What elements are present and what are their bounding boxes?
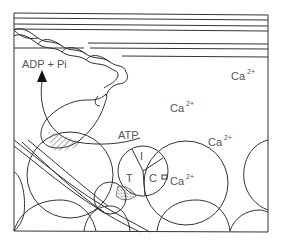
- svg-text:Ca: Ca: [208, 136, 223, 148]
- svg-text:2+: 2+: [186, 173, 194, 180]
- diagram-frame: [14, 13, 268, 232]
- svg-text:2+: 2+: [247, 68, 255, 75]
- atp-label: ATP: [118, 129, 139, 141]
- actin-filament: [14, 132, 268, 231]
- muscle-contraction-diagram: ADP + Pi ATP I T C Ca 2+ Ca 2+ Ca 2+ Ca …: [0, 0, 281, 247]
- arrow-head-icon: [37, 70, 47, 82]
- calcium-ion-label: Ca 2+: [208, 134, 232, 148]
- troponin-c-label: C: [149, 172, 157, 184]
- adp-pi-label: ADP + Pi: [22, 58, 67, 70]
- svg-text:2+: 2+: [224, 134, 232, 141]
- calcium-ion-label: Ca 2+: [170, 173, 194, 187]
- calcium-ion-label: Ca 2+: [170, 100, 194, 114]
- svg-text:Ca: Ca: [170, 175, 185, 187]
- thick-filament-lines: [14, 13, 268, 57]
- svg-text:2+: 2+: [186, 100, 194, 107]
- svg-text:Ca: Ca: [170, 102, 185, 114]
- tropomyosin-strand: [14, 140, 150, 232]
- troponin-t-label: T: [126, 172, 133, 184]
- calcium-ion-label: Ca 2+: [231, 68, 255, 82]
- svg-text:Ca: Ca: [231, 70, 246, 82]
- troponin-i-label: I: [140, 150, 143, 162]
